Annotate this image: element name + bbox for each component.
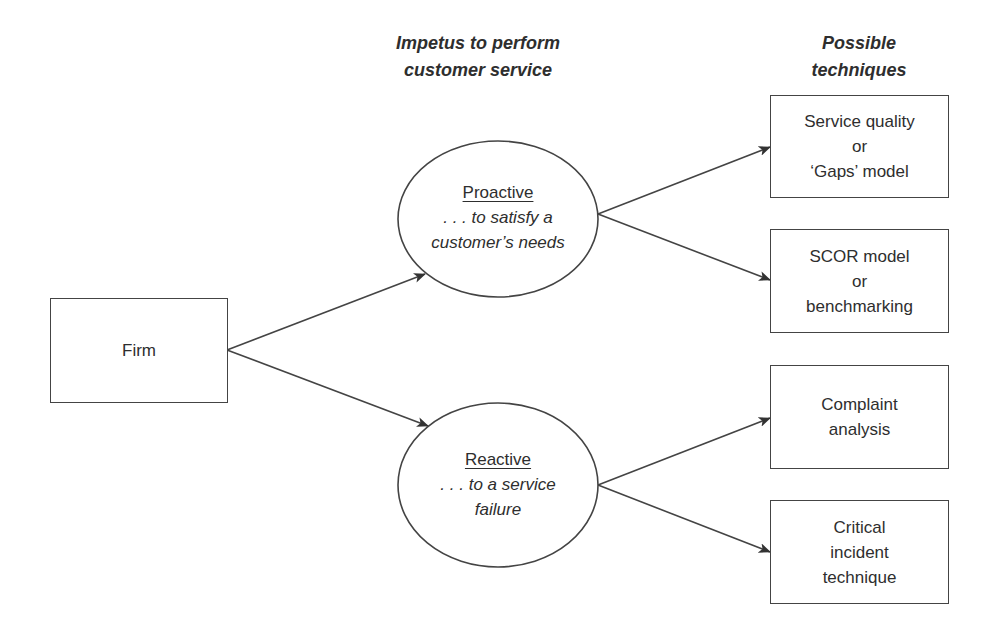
arrow-firm-to-proactive [227, 274, 425, 350]
firm-label: Firm [122, 338, 156, 363]
technique-line: Complaint [821, 392, 898, 417]
technique-line: SCOR model [809, 244, 909, 269]
firm-box: Firm [50, 298, 228, 403]
reactive-desc-line-2: failure [408, 497, 588, 522]
impetus-heading: Impetus to perform customer service [378, 30, 578, 84]
arrow-reactive-to-complaint [598, 418, 770, 485]
techniques-heading: Possible techniques [779, 30, 939, 84]
reactive-title: Reactive [408, 447, 588, 472]
techniques-heading-line-1: Possible [779, 30, 939, 57]
reactive-node: Reactive . . . to a service failure [408, 447, 588, 522]
reactive-desc-line-1: . . . to a service [408, 472, 588, 497]
technique-line: benchmarking [806, 294, 913, 319]
proactive-desc-line-1: . . . to satisfy a [408, 205, 588, 230]
technique-box-gaps-model: Service quality or ‘Gaps’ model [770, 95, 949, 198]
technique-box-complaint-analysis: Complaint analysis [770, 365, 949, 469]
arrow-proactive-to-scor [598, 214, 770, 280]
technique-line: analysis [829, 417, 890, 442]
technique-line: or [852, 269, 867, 294]
impetus-heading-line-2: customer service [378, 57, 578, 84]
technique-line: ‘Gaps’ model [810, 159, 909, 184]
impetus-heading-line-1: Impetus to perform [378, 30, 578, 57]
technique-box-critical-incident: Critical incident technique [770, 500, 949, 604]
technique-line: or [852, 134, 867, 159]
technique-line: Service quality [804, 109, 915, 134]
proactive-node: Proactive . . . to satisfy a customer’s … [408, 180, 588, 255]
technique-box-scor-model: SCOR model or benchmarking [770, 229, 949, 333]
arrow-reactive-to-critical [598, 485, 770, 552]
proactive-desc-line-2: customer’s needs [408, 230, 588, 255]
technique-line: incident [830, 540, 889, 565]
technique-line: Critical [834, 515, 886, 540]
technique-line: technique [823, 565, 897, 590]
arrow-proactive-to-gaps [598, 147, 770, 214]
techniques-heading-line-2: techniques [779, 57, 939, 84]
arrow-firm-to-reactive [227, 350, 428, 426]
proactive-title: Proactive [408, 180, 588, 205]
